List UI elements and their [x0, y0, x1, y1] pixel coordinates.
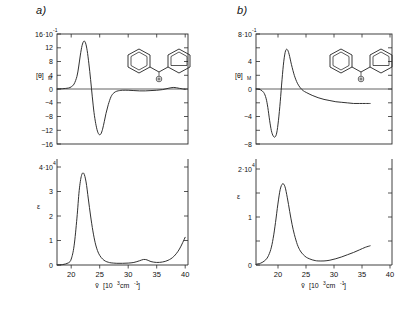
- ytick-label: 2·10: [238, 166, 252, 173]
- panel-a-mcd-xticks: [71, 34, 185, 38]
- panel-b-abs-yticks: [256, 169, 260, 265]
- xaxis-unit: [10: [103, 282, 113, 290]
- panel-b-mcd-ytick-labels: 8·10 -1 4 0 −4 −8 [θ] M: [235, 27, 257, 148]
- ytick-label: 0: [49, 86, 53, 93]
- panel-b-mcd-xticks: [278, 34, 390, 38]
- panel-a-abs-ylabel: ε: [37, 203, 40, 210]
- ytick-label: 1: [49, 237, 53, 244]
- panel-a-xaxis-title: ṽ [10 3 cm -1 ]: [95, 280, 140, 290]
- xaxis-unit-tail: cm: [326, 282, 336, 289]
- panel-a-abs-yticks: [57, 167, 61, 265]
- panel-b-abs-xticks: [278, 265, 390, 269]
- panel-b-mcd-ylabel: [θ]: [235, 72, 243, 80]
- xtick-label: 40: [181, 270, 189, 279]
- ytick-label: 4: [248, 58, 252, 65]
- ytick-label: 0: [248, 262, 252, 269]
- panel-b-mcd-ylabel-sub: M: [247, 75, 251, 81]
- xtick-label: 35: [153, 270, 161, 279]
- xaxis-unit: [10: [309, 282, 319, 290]
- xtick-label: 35: [358, 270, 366, 279]
- panel-b-label: b): [237, 4, 248, 16]
- xtick-label: 25: [302, 270, 310, 279]
- panel-b-abs-ylabel: ε: [237, 193, 240, 200]
- xtick-label: 20: [274, 270, 282, 279]
- xtick-label: 20: [67, 270, 75, 279]
- xtick-label: 30: [124, 270, 132, 279]
- ytick-label: 16·10: [35, 31, 53, 38]
- panel-b-abs-yticks-right: [388, 169, 392, 241]
- panel-b-abs-chart: 2·10 4 1 0 ε 20 25 30 35 40 ṽ [10 3: [204, 155, 407, 290]
- ytick-label-exponent: 4: [53, 160, 56, 166]
- xaxis-unit-close: ]: [138, 282, 140, 290]
- xtick-label: 40: [386, 270, 394, 279]
- xtick-label: 30: [330, 270, 338, 279]
- panel-a-abs-curve: [57, 173, 185, 265]
- panel-a-abs-svg: 4·10 4 3 2 1 0 ε 20 25 30 35 40 ṽ: [0, 155, 203, 290]
- panel-b-xaxis-title: ṽ [10 3 cm -1 ]: [301, 280, 346, 290]
- ytick-label: 1: [248, 214, 252, 221]
- ytick-label: −12: [41, 127, 53, 134]
- panel-a-mcd-ylabel: [θ]: [36, 72, 44, 80]
- xaxis-unit-tail: cm: [120, 282, 130, 289]
- ytick-label: −4: [45, 99, 53, 106]
- xaxis-var: ṽ: [95, 282, 99, 289]
- panel-a-xtick-labels: 20 25 30 35 40: [67, 270, 189, 279]
- panel-a-label: a): [36, 4, 47, 16]
- panel-a-mcd-ylabel-sub: M: [48, 75, 52, 81]
- xaxis-unit-close: ]: [344, 282, 346, 290]
- panel-a-abs-chart: 4·10 4 3 2 1 0 ε 20 25 30 35 40 ṽ: [0, 155, 203, 290]
- panel-a: a): [0, 0, 203, 317]
- ytick-label: 8·10: [238, 31, 252, 38]
- panel-b-abs-curve: [256, 184, 370, 265]
- ytick-label-exponent: 4: [252, 162, 255, 168]
- panel-b: b): [204, 0, 407, 317]
- panel-b-inset-molecule: [322, 38, 400, 86]
- ytick-label: −8: [45, 113, 53, 120]
- ytick-label: −8: [244, 141, 252, 148]
- panel-a-abs-xticks: [71, 265, 185, 269]
- ytick-label: 0: [49, 262, 53, 269]
- ytick-label: 2: [49, 213, 53, 220]
- ytick-label: 3: [49, 188, 53, 195]
- panel-b-abs-ytick-labels: 2·10 4 1 0 ε: [237, 162, 255, 269]
- panel-a-abs-yticks-right: [184, 167, 188, 241]
- panel-a-abs-axes: [57, 159, 188, 269]
- ytick-label: 0: [248, 86, 252, 93]
- ytick-label: 12: [45, 44, 53, 51]
- ytick-label-exponent: -1: [53, 27, 58, 33]
- ytick-label: 4·10: [39, 164, 53, 171]
- xtick-label: 25: [96, 270, 104, 279]
- ytick-label: −4: [244, 113, 252, 120]
- benzhydryl-cation-icon: [128, 49, 190, 82]
- ytick-label: 8: [49, 58, 53, 65]
- figure-mcd-absorption-spectra: a): [0, 0, 407, 317]
- panel-b-xtick-labels: 20 25 30 35 40: [274, 270, 394, 279]
- panel-a-abs-ytick-labels: 4·10 4 3 2 1 0 ε: [37, 160, 56, 269]
- panel-a-inset-molecule: [120, 38, 198, 86]
- benzhydryl-cation-icon: [330, 49, 392, 82]
- panel-b-abs-svg: 2·10 4 1 0 ε 20 25 30 35 40 ṽ [10 3: [204, 155, 407, 290]
- ytick-label: −16: [41, 141, 53, 148]
- xaxis-var: ṽ: [301, 282, 305, 289]
- panel-a-mcd-ytick-labels: 16·10 -1 12 8 4 0 −4 −8 −12 −16 [θ] M: [35, 27, 58, 148]
- ytick-label-exponent: -1: [252, 27, 257, 33]
